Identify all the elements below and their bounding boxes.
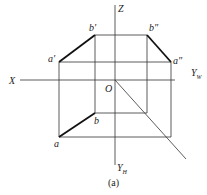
point-b-prime-label: b' (89, 22, 97, 33)
z-axis-label: Z (118, 3, 124, 14)
point-b-dprime-label: b" (149, 22, 159, 33)
projection-diagram: Z X O YW YH a' b' b" a" b a (a) (0, 0, 207, 195)
side-view-ab (147, 35, 171, 62)
front-view-ab (59, 35, 95, 62)
yw-axis-label: YW (191, 67, 203, 80)
diagonal-45-line (115, 80, 186, 159)
yh-axis-label: YH (117, 162, 128, 175)
point-a-dprime-label: a" (173, 55, 183, 66)
point-a-prime-label: a' (48, 53, 56, 64)
figure-caption: (a) (108, 177, 119, 189)
point-a-label: a (54, 138, 59, 149)
top-view-ab (59, 113, 95, 137)
x-axis-label: X (8, 75, 16, 86)
origin-label: O (105, 83, 112, 94)
point-b-label: b (94, 115, 99, 126)
